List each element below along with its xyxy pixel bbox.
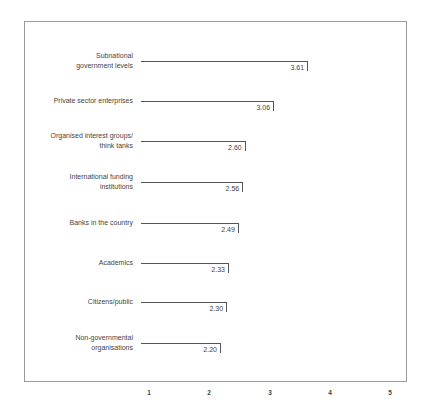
category-label-line: organisations (13, 343, 133, 353)
x-tick-label: 5 (388, 389, 392, 396)
category-label-line: government levels (13, 61, 133, 71)
category-label: International fundinginstitutions (13, 172, 133, 192)
category-label-line: institutions (13, 182, 133, 192)
value-label: 3.61 (290, 64, 304, 72)
value-label: 2.56 (226, 185, 240, 193)
bar: 2.33 (141, 263, 229, 273)
x-tick-label: 2 (207, 389, 211, 396)
x-tick-label: 3 (268, 389, 272, 396)
value-label: 2.20 (203, 346, 217, 354)
category-label: Academics (13, 258, 133, 268)
bar: 3.06 (141, 101, 274, 111)
category-label-line: Citizens/public (13, 297, 133, 307)
category-label-line: International funding (13, 172, 133, 182)
category-label-line: Non-governmental (13, 333, 133, 343)
category-label-line: Academics (13, 258, 133, 268)
bar: 2.49 (141, 223, 239, 233)
category-label-line: Organised interest groups/ (13, 131, 133, 141)
category-label-line: Private sector enterprises (13, 96, 133, 106)
value-label: 2.30 (210, 305, 224, 313)
x-tick-label: 1 (147, 389, 151, 396)
bar: 2.20 (141, 343, 221, 353)
category-label: Banks in the country (13, 218, 133, 228)
category-label: Organised interest groups/think tanks (13, 131, 133, 151)
value-label: 2.49 (221, 226, 235, 234)
bar: 2.56 (141, 182, 243, 192)
category-label: Non-governmentalorganisations (13, 333, 133, 353)
value-label: 2.33 (211, 266, 225, 274)
category-label-line: Subnational (13, 51, 133, 61)
category-label-line: Banks in the country (13, 218, 133, 228)
category-label: Private sector enterprises (13, 96, 133, 106)
category-label: Citizens/public (13, 297, 133, 307)
value-label: 2.60 (228, 144, 242, 152)
category-label: Subnationalgovernment levels (13, 51, 133, 71)
bar: 2.30 (141, 302, 227, 312)
chart-frame (24, 21, 407, 382)
category-label-line: think tanks (13, 141, 133, 151)
bar: 3.61 (141, 61, 308, 71)
x-tick-label: 4 (328, 389, 332, 396)
value-label: 3.06 (256, 104, 270, 112)
bar: 2.60 (141, 141, 246, 151)
